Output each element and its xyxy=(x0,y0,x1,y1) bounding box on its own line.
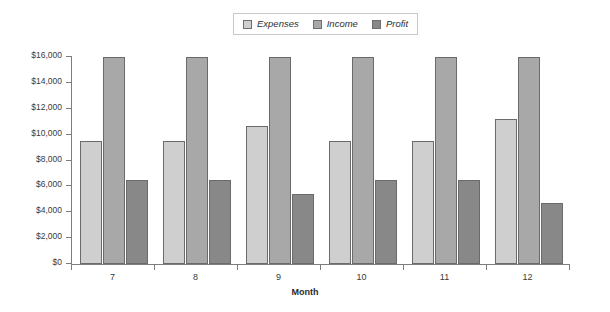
legend-item-profit[interactable]: Profit xyxy=(372,19,408,29)
bar-profit-12[interactable] xyxy=(541,203,563,264)
bar-income-11[interactable] xyxy=(435,57,457,264)
y-tick-label: $16,000 xyxy=(31,51,62,60)
bar-expenses-9[interactable] xyxy=(246,126,268,264)
bar-expenses-10[interactable] xyxy=(329,141,351,264)
x-tick-label: 10 xyxy=(356,273,366,282)
bar-profit-8[interactable] xyxy=(209,180,231,264)
bar-expenses-7[interactable] xyxy=(80,141,102,264)
y-tick-label: $2,000 xyxy=(36,232,62,241)
x-tick-label: 8 xyxy=(193,273,198,282)
x-tick-mark xyxy=(320,265,321,270)
y-tick-label: $14,000 xyxy=(31,77,62,86)
y-tick-mark xyxy=(66,82,71,83)
legend-swatch-icon xyxy=(243,20,252,29)
y-tick-mark xyxy=(66,56,71,57)
legend-item-income[interactable]: Income xyxy=(313,19,358,29)
y-tick-label: $8,000 xyxy=(36,155,62,164)
x-axis-title: Month xyxy=(0,288,610,297)
y-tick-mark xyxy=(66,263,71,264)
y-tick-label: $10,000 xyxy=(31,129,62,138)
bar-chart: ExpensesIncomeProfit $0$2,000$4,000$6,00… xyxy=(0,0,610,312)
y-tick-label: $4,000 xyxy=(36,206,62,215)
legend-label: Expenses xyxy=(257,19,299,29)
bar-income-7[interactable] xyxy=(103,57,125,264)
bar-profit-9[interactable] xyxy=(292,194,314,264)
x-tick-mark xyxy=(154,265,155,270)
chart-legend: ExpensesIncomeProfit xyxy=(233,13,418,35)
x-tick-mark xyxy=(486,265,487,270)
x-tick-label: 11 xyxy=(440,273,449,282)
y-tick-label: $12,000 xyxy=(31,103,62,112)
x-tick-mark xyxy=(403,265,404,270)
legend-swatch-icon xyxy=(313,20,322,29)
bar-income-10[interactable] xyxy=(352,57,374,264)
legend-label: Profit xyxy=(386,19,408,29)
x-tick-label: 7 xyxy=(110,273,115,282)
bar-profit-11[interactable] xyxy=(458,180,480,264)
y-tick-label: $0 xyxy=(53,258,62,267)
x-tick-mark xyxy=(569,265,570,270)
bar-profit-7[interactable] xyxy=(126,180,148,264)
bar-expenses-12[interactable] xyxy=(495,119,517,264)
legend-label: Income xyxy=(327,19,358,29)
bar-expenses-8[interactable] xyxy=(163,141,185,264)
bar-profit-10[interactable] xyxy=(375,180,397,264)
y-tick-mark xyxy=(66,160,71,161)
x-tick-mark xyxy=(237,265,238,270)
bar-income-12[interactable] xyxy=(518,57,540,264)
bar-income-9[interactable] xyxy=(269,57,291,264)
x-tick-label: 12 xyxy=(522,273,532,282)
legend-item-expenses[interactable]: Expenses xyxy=(243,19,299,29)
bar-expenses-11[interactable] xyxy=(412,141,434,264)
y-tick-mark xyxy=(66,237,71,238)
y-tick-label: $6,000 xyxy=(36,180,62,189)
legend-swatch-icon xyxy=(372,20,381,29)
y-tick-mark xyxy=(66,108,71,109)
x-tick-mark xyxy=(71,265,72,270)
y-tick-mark xyxy=(66,185,71,186)
y-tick-mark xyxy=(66,211,71,212)
bar-income-8[interactable] xyxy=(186,57,208,264)
plot-area xyxy=(72,57,570,264)
x-tick-label: 9 xyxy=(276,273,281,282)
y-tick-mark xyxy=(66,134,71,135)
